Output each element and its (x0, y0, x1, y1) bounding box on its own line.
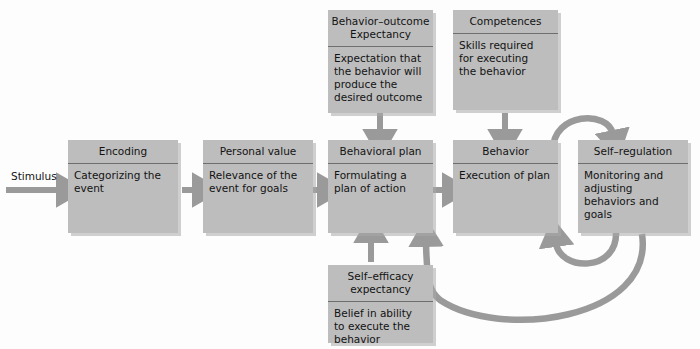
box-behavior-outcome-expectancy[interactable]: Behavior–outcome Expectancy Expectation … (328, 10, 433, 113)
box-competences[interactable]: Competences Skills required for executin… (453, 10, 558, 110)
box-behavior-head: Behavior (453, 140, 558, 164)
box-self-regulation[interactable]: Self–regulation Monitoring and adjusting… (578, 140, 688, 233)
box-self-regulation-body: Monitoring and adjusting behaviors and g… (578, 164, 688, 233)
box-personal-value[interactable]: Personal value Relevance of the event fo… (203, 140, 313, 233)
arrow-self-regulation-to-behavioral-plan (426, 234, 643, 320)
box-encoding[interactable]: Encoding Categorizing the event (68, 140, 178, 233)
box-self-efficacy-expectancy-body: Belief in ability to execute the behavio… (328, 302, 433, 349)
box-personal-value-head: Personal value (203, 140, 313, 164)
box-self-efficacy-expectancy[interactable]: Self–efficacy expectancy Belief in abili… (328, 265, 433, 343)
box-behavioral-plan[interactable]: Behavioral plan Formulating a plan of ac… (328, 140, 433, 233)
box-behavioral-plan-head: Behavioral plan (328, 140, 433, 164)
diagram-canvas: Stimulus Encoding Categorizing the event… (0, 0, 700, 349)
box-behavior-outcome-expectancy-head: Behavior–outcome Expectancy (328, 10, 433, 47)
box-competences-head: Competences (453, 10, 558, 34)
box-behavior-body: Execution of plan (453, 164, 558, 233)
box-competences-body: Skills required for executing the behavi… (453, 34, 558, 110)
box-personal-value-body: Relevance of the event for goals (203, 164, 313, 233)
box-behavior-outcome-expectancy-body: Expectation that the behavior will produ… (328, 47, 433, 113)
box-behavioral-plan-body: Formulating a plan of action (328, 164, 433, 233)
box-self-regulation-head: Self–regulation (578, 140, 688, 164)
box-encoding-head: Encoding (68, 140, 178, 164)
box-behavior[interactable]: Behavior Execution of plan (453, 140, 558, 233)
arrow-self-regulation-to-behavior (556, 232, 616, 264)
box-self-efficacy-expectancy-head: Self–efficacy expectancy (328, 265, 433, 302)
box-encoding-body: Categorizing the event (68, 164, 178, 233)
stimulus-label: Stimulus (11, 170, 57, 182)
